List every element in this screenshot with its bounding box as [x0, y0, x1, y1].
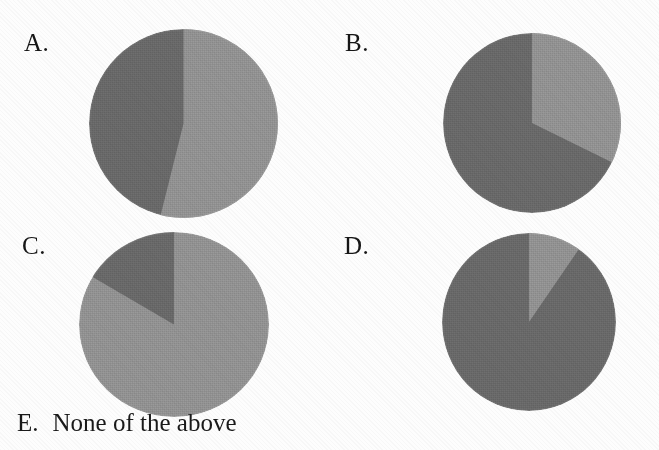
option-e-text: None of the above — [53, 410, 237, 435]
pie-chart-d[interactable] — [442, 233, 616, 411]
pie-d-svg — [442, 233, 616, 411]
option-e-label: E. — [17, 410, 39, 435]
option-b[interactable]: B. — [330, 0, 659, 225]
pie-chart-a[interactable] — [89, 29, 278, 218]
option-a[interactable]: A. — [0, 0, 330, 225]
option-a-label: A. — [24, 30, 49, 55]
option-b-label: B. — [345, 30, 369, 55]
option-c-label: C. — [22, 233, 46, 258]
option-d-label: D. — [344, 233, 369, 258]
pie-chart-c[interactable] — [79, 232, 269, 417]
pie-chart-b[interactable] — [443, 33, 621, 213]
option-c[interactable]: C. — [0, 225, 330, 410]
pie-a-svg — [89, 29, 278, 218]
question-sheet: A. B. C. — [0, 0, 659, 450]
pie-c-svg — [79, 232, 269, 417]
option-e[interactable]: E. None of the above — [17, 410, 237, 435]
pie-b-svg — [443, 33, 621, 213]
option-d[interactable]: D. — [330, 225, 659, 410]
